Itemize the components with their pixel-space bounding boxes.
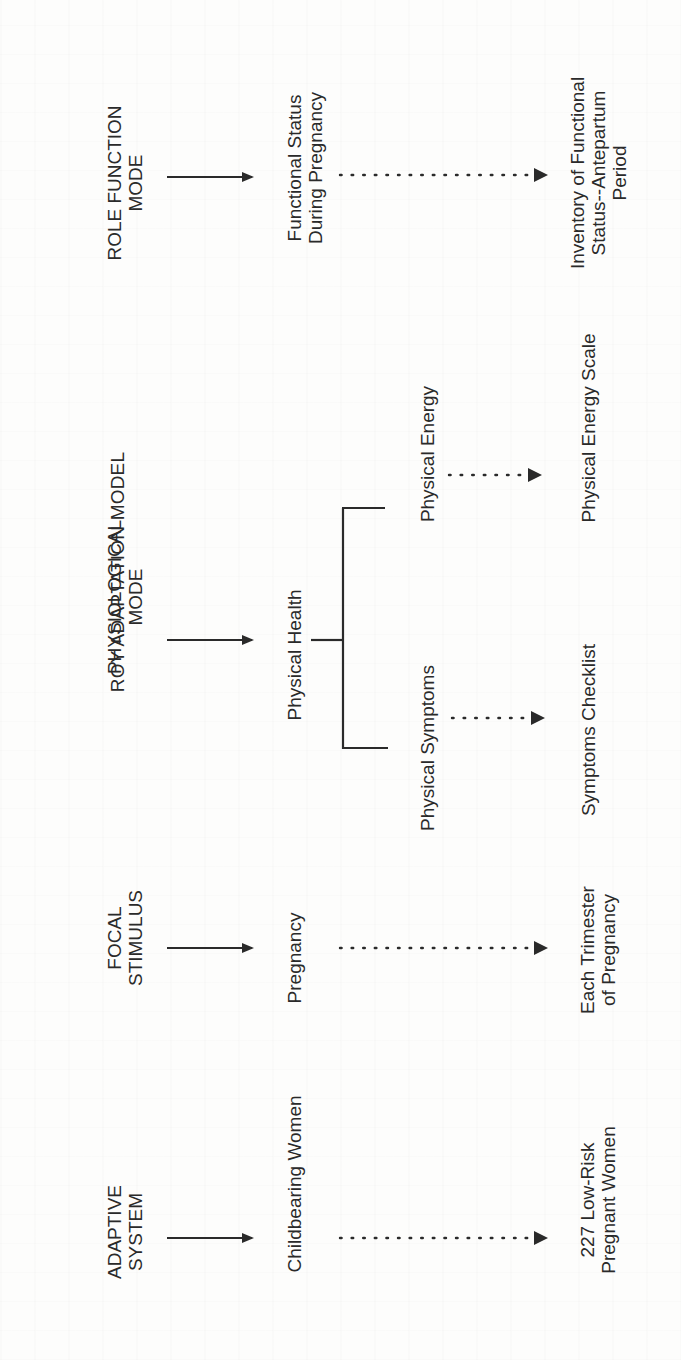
dotted-arrowheads [528,168,548,1245]
indicator-sample-227-women: 227 Low-Risk Pregnant Women [577,1126,619,1274]
concept-adaptive-system: ADAPTIVE SYSTEM [104,1185,146,1279]
subconstruct-physical-symptoms: Physical Symptoms [417,665,438,831]
construct-physical-health: Physical Health [284,590,305,721]
indicator-symptoms-checklist: Symptoms Checklist [578,644,599,816]
concept-focal-stimulus: FOCAL STIMULUS [104,890,146,986]
dotted-arrows [340,175,538,1238]
solid-arrows [167,177,252,1238]
construct-childbearing-women: Childbearing Women [284,1095,305,1272]
concept-physiological-mode: PHYSIOLOGICAL MODE [104,520,146,674]
physical-health-bracket [311,508,388,749]
subconstruct-physical-energy: Physical Energy [417,386,438,522]
indicator-each-trimester: Each Trimester of Pregnancy [577,886,619,1014]
construct-functional-status: Functional Status During Pregnancy [284,92,326,244]
indicator-physical-energy-scale: Physical Energy Scale [578,333,599,522]
concept-role-function-mode: ROLE FUNCTION MODE [104,105,146,260]
construct-pregnancy: Pregnancy [284,913,305,1004]
indicator-inventory-functional-status: Inventory of Functional Status--Antepart… [567,77,630,269]
